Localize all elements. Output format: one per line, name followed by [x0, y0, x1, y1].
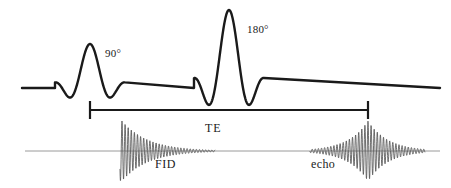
te-label: TE — [205, 122, 221, 134]
pulse-90-label: 90° — [105, 48, 121, 59]
pulse-sequence-canvas — [0, 0, 451, 188]
te-bracket — [90, 101, 368, 119]
fid-label: FID — [155, 158, 176, 170]
rf-channel-group — [22, 10, 440, 105]
pulse-sequence-diagram: 90° 180° TE FID echo — [0, 0, 451, 188]
echo-label: echo — [311, 158, 335, 170]
te-bracket-group — [90, 101, 368, 119]
signal-channel-group — [25, 121, 440, 180]
pulse-180-label: 180° — [247, 24, 269, 35]
rf-waveform-trace — [22, 10, 440, 105]
